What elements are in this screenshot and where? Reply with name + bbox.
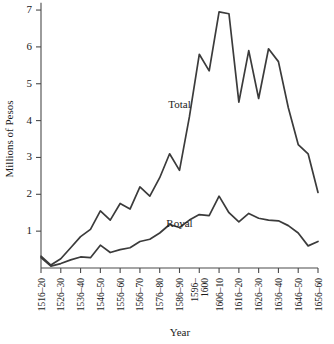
series-line-royal bbox=[41, 196, 318, 266]
x-axis-tick-labels: 1516–201526–301536–401546–501556–601566–… bbox=[37, 278, 324, 312]
x-tick-label-3: 1546–50 bbox=[96, 278, 106, 312]
x-tick-label-7: 1586–90 bbox=[175, 278, 185, 312]
x-tick-label-2: 1536–40 bbox=[76, 278, 86, 312]
y-tick-label-4: 4 bbox=[27, 114, 33, 126]
x-tick-label-0: 1516–20 bbox=[37, 278, 47, 312]
x-tick-label-9: 1606–10 bbox=[215, 278, 225, 312]
y-tick-label-3: 3 bbox=[27, 150, 33, 162]
x-tick-label-8: 1596– bbox=[190, 278, 200, 302]
x-tick-label-5: 1566–70 bbox=[135, 278, 145, 312]
y-tick-label-6: 6 bbox=[27, 40, 33, 52]
x-tick-label-12: 1636–40 bbox=[274, 278, 284, 312]
x-tick-label-13: 1646–50 bbox=[294, 278, 304, 312]
series-label-total: Total bbox=[168, 98, 190, 110]
x-axis-title: Year bbox=[170, 326, 191, 338]
y-axis-ticks: 1234567 bbox=[27, 3, 42, 236]
y-tick-label-5: 5 bbox=[27, 77, 33, 89]
series-label-royal: Royal bbox=[166, 217, 192, 229]
x-tick-label-1: 1526–30 bbox=[56, 278, 66, 312]
x-tick-label-8: 1600 bbox=[200, 278, 210, 297]
x-tick-label-11: 1626–30 bbox=[254, 278, 264, 312]
y-axis-title: Millions of Pesos bbox=[3, 100, 15, 177]
x-axis-ticks bbox=[41, 268, 318, 273]
x-tick-label-10: 1616–20 bbox=[234, 278, 244, 312]
chart-container: 1234567 1516–201526–301536–401546–501556… bbox=[0, 0, 334, 344]
y-tick-label-7: 7 bbox=[27, 3, 33, 15]
y-tick-label-2: 2 bbox=[27, 187, 33, 199]
x-tick-label-4: 1556–60 bbox=[116, 278, 126, 312]
x-tick-label-6: 1576–80 bbox=[155, 278, 165, 312]
line-chart: 1234567 1516–201526–301536–401546–501556… bbox=[0, 0, 334, 344]
y-tick-label-1: 1 bbox=[27, 224, 33, 236]
x-tick-label-14: 1656–60 bbox=[314, 278, 324, 312]
